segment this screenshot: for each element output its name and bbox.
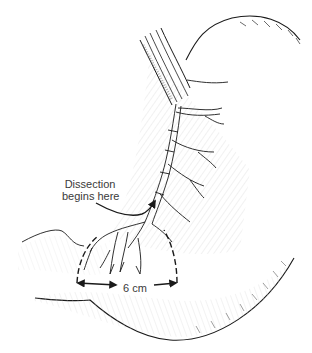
- dissection-label-line1: Dissection: [62, 178, 118, 190]
- dissection-label: Dissection begins here: [62, 178, 118, 202]
- anatomical-illustration: Dissection begins here 6 cm: [0, 0, 312, 353]
- measurement-label: 6 cm: [118, 282, 152, 294]
- dissection-label-line2: begins here: [62, 190, 118, 202]
- stomach-drawing: [0, 0, 312, 353]
